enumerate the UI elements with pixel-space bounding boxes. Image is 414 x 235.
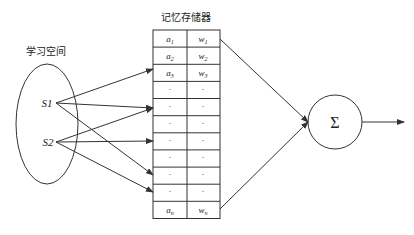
input-s2: S2 <box>43 136 55 148</box>
memory-cell-a: · <box>169 84 172 94</box>
memory-cell-a: · <box>169 152 172 162</box>
memory-cell-a: an <box>166 205 174 216</box>
memory-cell-w: · <box>202 186 205 196</box>
memory-cell-w: w1 <box>198 34 207 45</box>
memory-cell-a: · <box>169 101 172 111</box>
memory-cell-a: a2 <box>166 51 174 62</box>
cmac-memory-diagram: 记忆存储器 学习空间 S1 S2 a1 <box>0 0 414 235</box>
memory-cell-w: · <box>202 101 205 111</box>
memory-title: 记忆存储器 <box>161 11 211 23</box>
memory-cell-w: · <box>202 84 205 94</box>
memory-cell-w: w3 <box>198 68 207 79</box>
memory-cell-a: a1 <box>166 34 174 45</box>
memory-cell-a: a3 <box>166 68 174 79</box>
memory-cell-a: · <box>169 118 172 128</box>
memory-table: a1 w1 a2 w2 a3 w3 · · · · · · · · · · · … <box>153 30 220 219</box>
memory-cell-w: · <box>202 135 205 145</box>
memory-cell-w: w2 <box>198 51 207 62</box>
weight-to-sum-arrows <box>220 39 308 209</box>
memory-cell-a: · <box>169 135 172 145</box>
learning-space-label: 学习空间 <box>26 45 66 57</box>
memory-cell-w: · <box>202 118 205 128</box>
memory-cell-w: wn <box>198 205 207 216</box>
memory-cell-a: · <box>169 186 172 196</box>
memory-cell-a: · <box>169 169 172 179</box>
memory-cell-w: · <box>202 169 205 179</box>
input-s1: S1 <box>42 97 53 109</box>
learning-space-ellipse <box>16 64 78 184</box>
s2-mapping-arrows <box>56 108 153 192</box>
sum-symbol: Σ <box>330 114 339 131</box>
memory-cell-w: · <box>202 152 205 162</box>
